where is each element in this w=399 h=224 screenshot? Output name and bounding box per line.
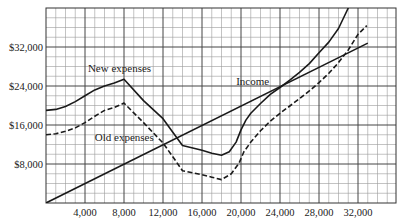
line-chart: $8,000$16,000$24,000$32,000 4,0008,00012…: [0, 0, 399, 224]
y-tick-label: $32,000: [9, 42, 43, 53]
x-tick-label: 12,000: [149, 207, 178, 218]
y-axis-labels: $8,000$16,000$24,000$32,000: [9, 42, 43, 170]
x-tick-label: 20,000: [227, 207, 256, 218]
grid-minor: [46, 8, 396, 203]
annotation-old-expenses: Old expenses: [95, 131, 154, 143]
x-tick-label: 28,000: [305, 207, 334, 218]
series-annotations: New expensesOld expensesIncome: [88, 62, 269, 142]
x-tick-label: 4,000: [73, 207, 97, 218]
y-tick-label: $16,000: [9, 120, 43, 131]
y-tick-label: $8,000: [14, 159, 43, 170]
series-new-expenses: [46, 8, 348, 155]
annotation-income: Income: [236, 75, 269, 87]
x-tick-label: 16,000: [188, 207, 217, 218]
annotation-new-expenses: New expenses: [88, 62, 151, 74]
x-axis-labels: 4,0008,00012,00016,00020,00024,00028,000…: [73, 207, 372, 218]
x-tick-label: 8,000: [112, 207, 136, 218]
x-tick-label: 24,000: [266, 207, 295, 218]
x-tick-label: 32,000: [344, 207, 373, 218]
y-tick-label: $24,000: [9, 81, 43, 92]
